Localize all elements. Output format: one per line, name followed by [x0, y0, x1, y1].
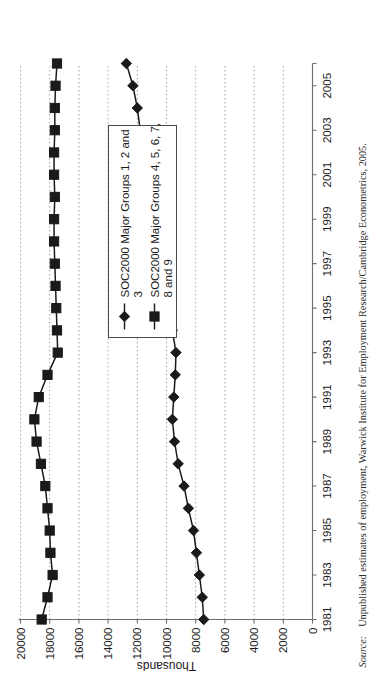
- data-point-diamond: [183, 503, 193, 513]
- x-axis-tick-label: 1981: [320, 606, 332, 632]
- y-axis-tick-label: 4000: [248, 627, 260, 653]
- data-point-square: [50, 103, 59, 112]
- data-point-diamond: [170, 369, 180, 379]
- x-axis-tick-label: 1997: [320, 250, 332, 276]
- y-axis-tick-label: 2000: [277, 627, 289, 653]
- y-axis-tick-label: 6000: [218, 627, 230, 653]
- data-point-diamond: [127, 80, 137, 90]
- data-point-square: [53, 348, 62, 357]
- data-point-diamond: [191, 547, 201, 557]
- legend-label: SOC2000 Major Groups 1, 2 and: [118, 129, 130, 297]
- data-point-square: [48, 570, 57, 579]
- rotated-figure-container: 0200040006000800010000120001400016000180…: [0, 0, 387, 675]
- y-axis-tick-label: 8000: [189, 627, 201, 653]
- data-point-diamond: [169, 436, 179, 446]
- data-point-square: [50, 259, 59, 268]
- data-point-square: [50, 192, 59, 201]
- data-point-square: [40, 481, 49, 490]
- data-point-diamond: [168, 391, 178, 401]
- source-label: Source:: [356, 635, 367, 667]
- data-point-diamond: [167, 414, 177, 424]
- data-point-diamond: [188, 525, 198, 535]
- x-axis-tick-label: 1987: [320, 473, 332, 499]
- line-chart: 0200040006000800010000120001400016000180…: [12, 57, 352, 675]
- data-point-diamond: [178, 480, 188, 490]
- data-point-square: [52, 325, 61, 334]
- data-point-square: [45, 548, 54, 557]
- y-axis-tick-label: 12000: [131, 627, 143, 659]
- data-point-square: [31, 436, 40, 445]
- data-point-square: [52, 58, 61, 67]
- legend-label-line2: 3: [131, 291, 143, 297]
- figure: 0200040006000800010000120001400016000180…: [0, 0, 387, 675]
- data-point-square: [34, 392, 43, 401]
- data-point-square: [37, 614, 46, 623]
- x-axis-tick-label: 1993: [320, 339, 332, 365]
- data-point-diamond: [172, 458, 182, 468]
- source-text: Unpublished estimates of employment, War…: [356, 143, 367, 627]
- x-axis-tick-label: 1999: [320, 206, 332, 232]
- data-point-square: [50, 125, 59, 134]
- data-point-square: [45, 525, 54, 534]
- data-point-square: [42, 370, 51, 379]
- y-axis-tick-label: 20000: [14, 627, 26, 659]
- source-note: Source:Unpublished estimates of employme…: [356, 7, 367, 667]
- data-point-square: [42, 503, 51, 512]
- x-axis-tick-label: 2003: [320, 117, 332, 143]
- data-point-diamond: [132, 102, 142, 112]
- y-axis-tick-label: 14000: [102, 627, 114, 659]
- y-axis-tick-label: 18000: [43, 627, 55, 659]
- data-point-diamond: [197, 592, 207, 602]
- data-point-square: [49, 170, 58, 179]
- x-axis-tick-label: 2001: [320, 161, 332, 187]
- data-point-square: [49, 214, 58, 223]
- data-point-square: [36, 459, 45, 468]
- legend-label: SOC2000 Major Groups 4, 5, 6, 7,: [148, 122, 160, 297]
- data-point-square: [50, 281, 59, 290]
- data-point-square: [42, 592, 51, 601]
- data-point-diamond: [198, 614, 208, 624]
- y-axis-tick-label: 16000: [72, 627, 84, 659]
- series-2: [29, 58, 62, 623]
- legend: SOC2000 Major Groups 1, 2 and3SOC2000 Ma…: [108, 122, 176, 337]
- data-point-diamond: [121, 58, 131, 68]
- x-axis-tick-label: 1995: [320, 295, 332, 321]
- data-point-square: [49, 236, 58, 245]
- x-axis-tick-label: 2005: [320, 72, 332, 98]
- x-axis-tick-label: 1991: [320, 384, 332, 410]
- data-point-square: [51, 303, 60, 312]
- x-axis-tick-label: 1989: [320, 428, 332, 454]
- data-point-square: [149, 311, 158, 320]
- data-point-square: [29, 414, 38, 423]
- data-point-diamond: [170, 347, 180, 357]
- y-axis-tick-label: 10000: [160, 627, 172, 659]
- x-axis-tick-label: 1983: [320, 562, 332, 588]
- chart-area: 0200040006000800010000120001400016000180…: [12, 57, 352, 675]
- y-axis-title: Thousands: [136, 658, 195, 672]
- legend-label-line2: 8 and 9: [161, 259, 173, 297]
- data-point-square: [49, 147, 58, 156]
- y-axis-tick-label: 0: [306, 627, 318, 633]
- x-axis-tick-label: 1985: [320, 517, 332, 543]
- data-point-square: [50, 81, 59, 90]
